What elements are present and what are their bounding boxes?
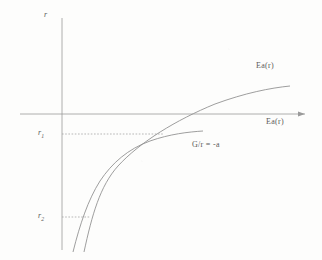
x-axis-label: Ea(r) bbox=[266, 117, 284, 126]
curves-group bbox=[73, 86, 290, 252]
leader-lines-group bbox=[62, 134, 163, 217]
r2-tick-label-subscript: 2 bbox=[41, 216, 44, 222]
r1-tick-label: r1 bbox=[38, 128, 44, 137]
g-over-r-curve-label: G/r = -a bbox=[192, 140, 220, 149]
x-axis-arrowhead bbox=[298, 112, 305, 117]
ea-curve-label: Ea(r) bbox=[256, 61, 274, 70]
g-over-r-curve bbox=[73, 131, 203, 252]
y-axis-label: r bbox=[44, 10, 47, 19]
diagram-canvas bbox=[0, 0, 322, 260]
ea-curve bbox=[84, 86, 290, 252]
r1-tick-label-subscript: 1 bbox=[41, 133, 44, 139]
r2-tick-label: r2 bbox=[38, 211, 44, 220]
